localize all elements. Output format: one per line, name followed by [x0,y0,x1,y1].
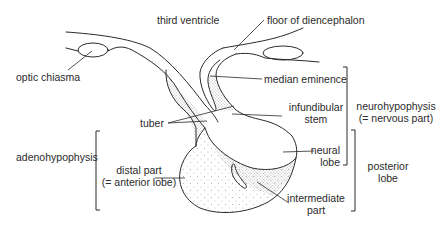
label-infundibular-line2: stem [286,113,346,125]
label-adenohypophysis: adenohypophysis [16,151,98,163]
label-optic-chiasma: optic chiasma [16,71,80,83]
leader-infundibular-stem [232,114,282,116]
label-infundibular-line1: infundibular [286,101,346,113]
label-distal-part: distal part (= anterior lobe) [98,164,180,188]
label-median-eminence: median eminence [264,73,347,85]
optic-chiasma-shape [78,43,108,57]
label-third-ventricle: third ventricle [157,14,219,26]
label-posterior-lobe-line1: posterior [358,160,418,172]
label-distal-part-line2: (= anterior lobe) [98,176,180,188]
label-intermediate-part: intermediate part [284,192,348,216]
label-neural-lobe-line2: lobe [300,156,340,168]
label-posterior-lobe-line2: lobe [358,172,418,184]
mammillary-body [263,46,303,60]
leader-floor-diencephalon [234,20,264,50]
label-intermediate-part-line2: part [284,204,348,216]
floor-diencephalon-upper [223,28,303,48]
leader-median-eminence [210,76,262,79]
tuber-stipple [166,70,205,146]
label-intermediate-part-line1: intermediate [284,192,348,204]
label-posterior-lobe: posterior lobe [358,160,418,184]
label-distal-part-line1: distal part [98,164,180,176]
label-tuber: tuber [140,117,164,129]
label-neurohypophysis-line2: (= nervous part) [351,112,441,124]
floor-diencephalon-lower [236,53,319,62]
pituitary-diagram: third ventricle floor of diencephalon op… [0,0,442,225]
label-infundibular-stem: infundibular stem [286,101,346,125]
label-neural-lobe: neural lobe [300,144,340,168]
bracket-posterior-lobe [351,130,355,211]
lower-chiasma-outline [66,48,78,51]
label-floor-of-diencephalon: floor of diencephalon [267,14,365,26]
label-neurohypophysis-line1: neurohypophysis [351,100,441,112]
label-neurohypophysis: neurohypophysis (= nervous part) [351,100,441,124]
label-neural-lobe-line1: neural [300,144,340,156]
